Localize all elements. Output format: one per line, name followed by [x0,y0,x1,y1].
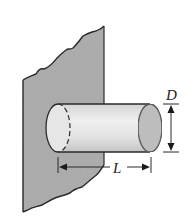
rod [46,104,162,152]
arrow-right-icon [142,164,150,171]
diameter-dimension: D [163,87,179,152]
arrow-up-icon [168,105,175,113]
pin-fin-diagram: D L [0,0,189,218]
arrow-down-icon [168,143,175,151]
diameter-label: D [165,87,177,103]
rod-body [58,104,150,152]
length-label: L [112,160,121,176]
rod-end-face [138,104,162,152]
